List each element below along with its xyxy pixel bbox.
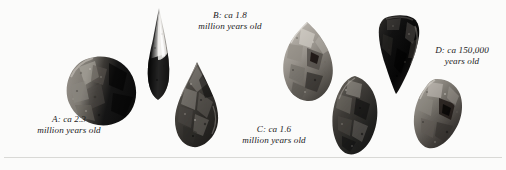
artifact-c-cleaver	[281, 22, 335, 102]
artifact-c-ovate	[332, 76, 378, 156]
caption-artifact-b: B: ca 1.8 million years old	[178, 10, 282, 32]
artifact-figure-plate: A: ca 2.3 million years old B: ca 1.8 mi…	[0, 0, 506, 170]
artifact-c-handaxe	[173, 62, 221, 148]
artifact-b-point	[142, 8, 176, 100]
plate-bottom-rule	[4, 157, 502, 158]
caption-artifact-d: D: ca 150,000 years old	[420, 45, 504, 67]
caption-artifact-c: C: ca 1.6 million years old	[222, 124, 326, 146]
caption-artifact-a: A: ca 2.3 million years old	[17, 114, 121, 136]
artifact-d-scraper	[413, 78, 463, 152]
